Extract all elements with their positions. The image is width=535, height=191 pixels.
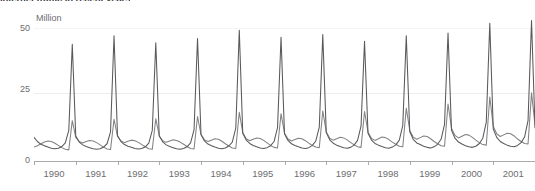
- x-tick-label-1999: 1999: [419, 168, 440, 179]
- x-tick-label-2000: 2000: [461, 168, 482, 179]
- x-tick-1991: [76, 161, 77, 165]
- x-tick-1997: [326, 161, 327, 165]
- x-tick-label-1992: 1992: [127, 168, 148, 179]
- x-tick-label-1995: 1995: [252, 168, 273, 179]
- x-tick-1998: [368, 161, 369, 165]
- x-tick-label-1991: 1991: [85, 168, 106, 179]
- x-tick-1992: [118, 161, 119, 165]
- x-tick-label-1994: 1994: [210, 168, 231, 179]
- x-tick-label-1997: 1997: [336, 168, 357, 179]
- x-tick-1999: [410, 161, 411, 165]
- x-tick-1995: [243, 161, 244, 165]
- x-tick-1994: [201, 161, 202, 165]
- x-tick-1990: [34, 161, 35, 165]
- x-tick-label-2001: 2001: [503, 168, 524, 179]
- x-tick-2001: [493, 161, 494, 165]
- x-axis-labels: 1990199119921993199419951996199719981999…: [0, 0, 535, 191]
- x-tick-label-1998: 1998: [377, 168, 398, 179]
- x-tick-2000: [452, 161, 453, 165]
- x-tick-label-1993: 1993: [169, 168, 190, 179]
- x-tick-1993: [159, 161, 160, 165]
- x-tick-label-1990: 1990: [43, 168, 64, 179]
- x-tick-label-1996: 1996: [294, 168, 315, 179]
- chart-container: Internet traffic in recent years Million…: [0, 0, 535, 191]
- x-tick-1996: [285, 161, 286, 165]
